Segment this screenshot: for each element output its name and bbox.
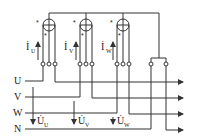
meter-w: * * İ W [101,19,131,66]
svg-text:W: W [106,48,112,54]
svg-text:*: * [44,32,47,39]
bus-label-w: W [13,107,23,118]
svg-text:*: * [81,32,84,39]
bus-w-out [129,66,183,114]
svg-text:V: V [69,48,74,54]
bus-w-in [25,66,117,113]
current-label-v: İ [64,41,67,52]
meter-u: * * İ U [26,19,57,66]
neutral-terminal-2 [164,62,168,66]
bus-label-v: V [14,91,22,102]
voltage-common-line [49,13,166,62]
neutral-terminal-1 [149,62,153,66]
bus-u-out [55,66,183,82]
current-label-u: İ [26,41,29,52]
circuit-diagram: * * İ U * * İ V * * İ W [0,0,197,140]
svg-text:W: W [124,122,130,128]
svg-text:*: * [73,19,76,26]
svg-text:*: * [110,19,113,26]
bus-label-u: U [14,75,22,86]
svg-text:U: U [31,48,36,54]
svg-text:V: V [85,122,90,128]
bus-u-in [25,66,43,81]
current-label-w: İ [101,41,104,52]
wiring-svg: * * İ U * * İ V * * İ W [0,0,197,140]
meter-v: * * İ V [64,19,94,66]
svg-text:*: * [36,19,39,26]
svg-text:*: * [118,32,121,39]
bus-label-n: N [14,123,21,134]
svg-text:U: U [44,122,49,128]
